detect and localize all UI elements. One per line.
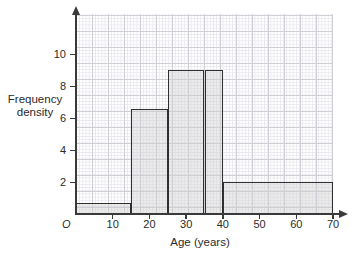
histogram-bar [205, 70, 223, 214]
x-axis-title: Age (years) [140, 236, 260, 248]
x-axis-tick-label: 20 [134, 219, 164, 230]
histogram-bar [223, 182, 333, 214]
x-axis-tick-label: 40 [208, 219, 238, 230]
y-axis-tick [70, 150, 76, 151]
y-axis-arrow-icon [72, 6, 80, 15]
y-axis-tick-label: 10 [44, 49, 66, 60]
x-axis-tick-label: 50 [245, 219, 275, 230]
histogram-bar [131, 109, 168, 215]
bin-divider-line [205, 70, 207, 214]
histogram-bar [168, 70, 205, 214]
y-axis-tick [70, 118, 76, 119]
x-axis-arrow-icon [339, 210, 348, 218]
y-axis-title: Frequency density [2, 93, 68, 119]
y-axis-tick [70, 86, 76, 87]
y-axis-tick [70, 54, 76, 55]
y-axis-tick [70, 182, 76, 183]
y-axis-title-line-1: Frequency [2, 93, 68, 106]
x-axis-tick-label: 30 [171, 219, 201, 230]
x-axis-tick-label: 60 [281, 219, 311, 230]
y-axis-line [75, 14, 77, 215]
y-axis-tick-label: 2 [44, 177, 66, 188]
y-axis-title-line-2: density [2, 106, 68, 119]
y-axis-tick-label: 4 [44, 145, 66, 156]
histogram-figure: 246810 10203040506070 O Frequency densit… [0, 0, 359, 257]
origin-label: O [62, 218, 71, 230]
x-axis-line [75, 213, 340, 215]
x-axis-tick-label: 10 [98, 219, 128, 230]
y-axis-tick-label: 8 [44, 81, 66, 92]
x-axis-tick-label: 70 [318, 219, 348, 230]
